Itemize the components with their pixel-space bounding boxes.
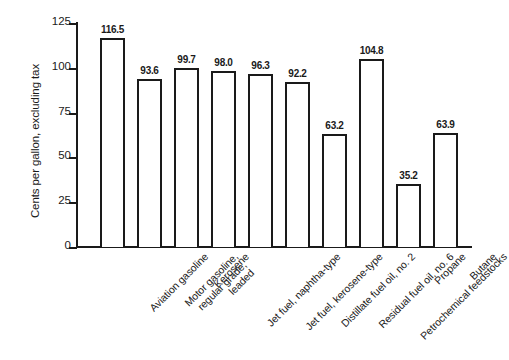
x-axis-category-labels: Aviation gasolineMotor gasoline,regular … (76, 251, 490, 360)
x-category-label-line: Jet fuel, naphtha-type (264, 251, 342, 329)
bar[interactable] (137, 79, 162, 247)
bar-value-label: 93.6 (140, 65, 158, 76)
bar[interactable] (100, 38, 125, 247)
bars-layer: 116.593.699.798.096.392.263.2104.835.263… (76, 23, 472, 247)
bar[interactable] (322, 134, 347, 247)
y-axis-title: Cents per gallon, excluding tax (29, 36, 41, 246)
bar-value-label: 92.2 (288, 68, 306, 79)
bar-value-label: 35.2 (399, 170, 417, 181)
bar-value-label: 96.3 (251, 60, 269, 71)
bar[interactable] (433, 133, 458, 248)
y-tick-label: 0 (65, 239, 71, 251)
bar[interactable] (248, 74, 273, 247)
bar-value-label: 63.9 (436, 119, 454, 130)
y-tick-label: 125 (52, 15, 71, 27)
plot-area: 0255075100125 116.593.699.798.096.392.26… (76, 23, 472, 247)
bar[interactable] (285, 82, 310, 247)
bar-value-label: 63.2 (325, 120, 343, 131)
bar[interactable] (396, 184, 421, 247)
bar[interactable] (174, 68, 199, 247)
y-tick-label: 100 (52, 60, 71, 72)
bar-value-label: 98.0 (214, 57, 232, 68)
bar-value-label: 104.8 (360, 45, 384, 56)
bar-value-label: 116.5 (101, 24, 124, 35)
x-category-label: Jet fuel, naphtha-type (264, 251, 342, 329)
y-tick-label: 50 (58, 149, 71, 161)
bar[interactable] (211, 71, 236, 247)
bar[interactable] (359, 59, 384, 247)
y-tick-label: 75 (58, 105, 71, 117)
y-tick-label: 25 (58, 194, 71, 206)
bar-value-label: 99.7 (177, 54, 195, 65)
